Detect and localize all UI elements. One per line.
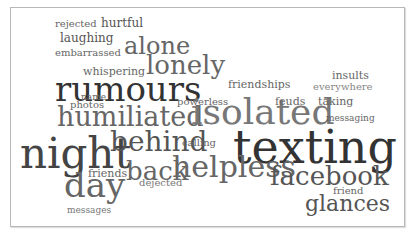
- word-calling: calling: [182, 138, 216, 148]
- word-hurtful: hurtful: [101, 17, 143, 29]
- word-day: day: [64, 168, 125, 202]
- word-everywhere: everywhere: [313, 82, 373, 92]
- word-insults: insults: [332, 70, 369, 81]
- word-friendships: friendships: [228, 79, 290, 90]
- word-dejected: dejected: [139, 178, 182, 188]
- word-facebook: facebook: [270, 163, 389, 189]
- word-messages: messages: [67, 206, 111, 215]
- word-taking: taking: [318, 96, 353, 107]
- word-feuds: feuds: [275, 96, 305, 107]
- word-embarrassed: embarrassed: [55, 48, 121, 58]
- word-rejected: rejected: [55, 19, 97, 29]
- word-glances: glances: [305, 193, 390, 215]
- word-laughing: laughing: [60, 32, 113, 44]
